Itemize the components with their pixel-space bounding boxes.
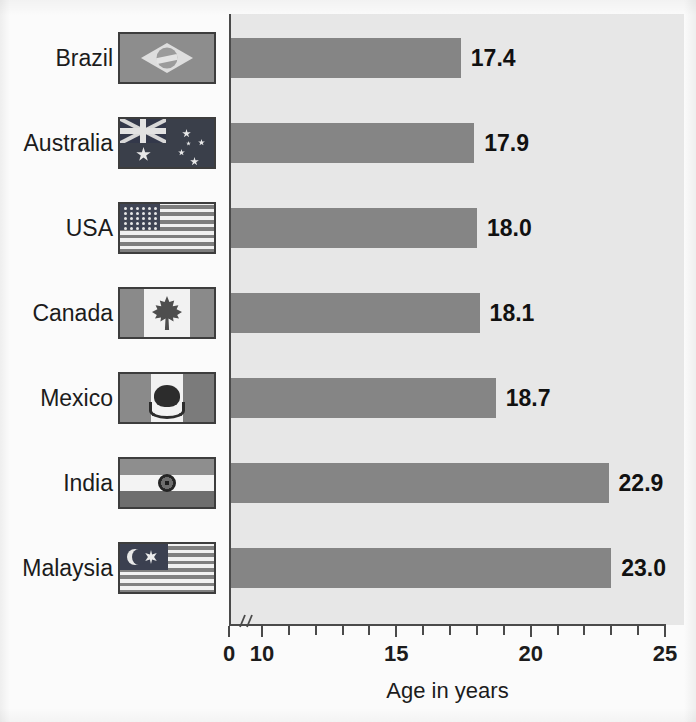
malaysia-flag-icon xyxy=(118,542,216,594)
bar xyxy=(231,463,609,503)
x-tick xyxy=(449,626,451,635)
x-tick-label: 20 xyxy=(518,641,542,667)
x-tick xyxy=(368,626,370,635)
x-tick xyxy=(261,626,263,637)
x-axis-title: Age in years xyxy=(229,678,666,704)
chart-row: Mexico18.7 xyxy=(0,368,696,428)
country-label: Canada xyxy=(0,283,113,343)
bar-value-label: 17.4 xyxy=(471,38,516,78)
brazil-flag-icon xyxy=(118,32,216,84)
bar xyxy=(231,293,480,333)
bar xyxy=(231,208,477,248)
bar-value-label: 23.0 xyxy=(621,548,666,588)
x-tick-zero xyxy=(228,626,230,637)
x-tick-label: 10 xyxy=(250,641,274,667)
country-label: Malaysia xyxy=(0,538,113,598)
australia-flag-icon xyxy=(118,117,216,169)
x-tick xyxy=(610,626,612,635)
bar-value-label: 17.9 xyxy=(484,123,529,163)
x-tick xyxy=(315,626,317,635)
bar-value-label: 18.7 xyxy=(506,378,551,418)
chart-row: India22.9 xyxy=(0,453,696,513)
bar xyxy=(231,548,611,588)
y-axis-line xyxy=(229,14,231,625)
country-label: Australia xyxy=(0,113,113,173)
x-tick xyxy=(395,626,397,637)
bar xyxy=(231,378,496,418)
x-tick xyxy=(530,626,532,637)
bar-value-label: 18.1 xyxy=(490,293,535,333)
bar-value-label: 18.0 xyxy=(487,208,532,248)
usa-flag-icon xyxy=(118,202,216,254)
bar xyxy=(231,38,461,78)
x-tick xyxy=(342,626,344,635)
x-tick xyxy=(288,626,290,635)
canada-flag-icon xyxy=(118,287,216,339)
country-label: Brazil xyxy=(0,28,113,88)
india-flag-icon xyxy=(118,457,216,509)
chart-row: Australia17.9 xyxy=(0,113,696,173)
mexico-flag-icon xyxy=(118,372,216,424)
country-label: India xyxy=(0,453,113,513)
chart-row: Malaysia23.0 xyxy=(0,538,696,598)
chart-row: Brazil17.4 xyxy=(0,28,696,88)
chart-row: Canada18.1 xyxy=(0,283,696,343)
country-label: Mexico xyxy=(0,368,113,428)
x-tick-label: 25 xyxy=(653,641,677,667)
bar xyxy=(231,123,474,163)
x-tick xyxy=(583,626,585,635)
x-tick-label: 15 xyxy=(384,641,408,667)
bar-value-label: 22.9 xyxy=(619,463,664,503)
x-axis-line xyxy=(229,624,666,626)
x-tick xyxy=(557,626,559,635)
x-tick xyxy=(637,626,639,635)
x-tick-label: 0 xyxy=(223,641,235,667)
x-tick xyxy=(422,626,424,635)
chart-row: USA18.0 xyxy=(0,198,696,258)
chart-page: Brazil17.4Australia17.9USA18.0Canada18.1… xyxy=(0,0,696,722)
x-tick xyxy=(664,626,666,637)
axis-break-icon xyxy=(236,614,258,628)
x-tick xyxy=(476,626,478,635)
country-label: USA xyxy=(0,198,113,258)
x-tick xyxy=(503,626,505,635)
